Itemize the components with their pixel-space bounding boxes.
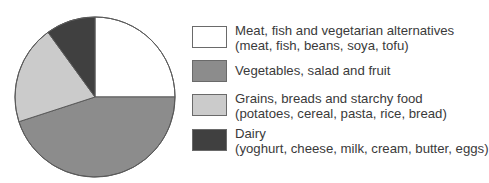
legend-label-meat: Meat, fish and vegetarian alternatives (…	[235, 23, 454, 53]
legend-label-line1: Meat, fish and vegetarian alternatives	[235, 23, 454, 38]
legend-label-line1: Vegetables, salad and fruit	[235, 63, 390, 78]
legend-swatch-dairy	[192, 129, 227, 151]
legend-label-line2: (potatoes, cereal, pasta, rice, bread)	[235, 106, 447, 121]
legend-label-vegetables: Vegetables, salad and fruit	[235, 63, 390, 78]
pie-slice-0	[95, 17, 175, 97]
legend-label-line2: (yoghurt, cheese, milk, cream, butter, e…	[235, 141, 489, 156]
legend-label-line2: (meat, fish, beans, soya, tofu)	[235, 38, 454, 53]
legend-label-line1: Grains, breads and starchy food	[235, 91, 447, 106]
legend-swatch-vegetables	[192, 60, 227, 82]
pie-chart	[0, 0, 190, 183]
legend-label-line1: Dairy	[235, 126, 489, 141]
legend-swatch-grains	[192, 94, 227, 116]
legend-label-dairy: Dairy (yoghurt, cheese, milk, cream, but…	[235, 126, 489, 156]
legend-swatch-meat	[192, 26, 227, 48]
legend-label-grains: Grains, breads and starchy food (potatoe…	[235, 91, 447, 121]
